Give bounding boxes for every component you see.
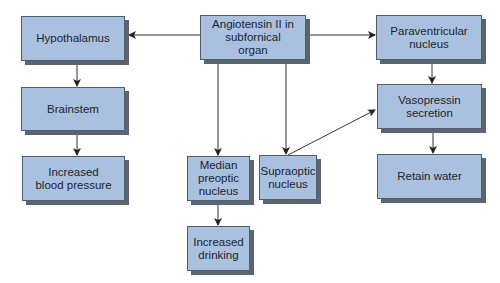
node-retain-water: Retain water — [377, 154, 482, 199]
node-label: Vasopressin secretion — [396, 94, 463, 120]
node-hypothalamus: Hypothalamus — [21, 16, 125, 61]
node-label: Brainstem — [47, 103, 99, 116]
node-median-preoptic-nucleus: Median preoptic nucleus — [187, 156, 250, 201]
node-brainstem: Brainstem — [21, 87, 125, 131]
node-label: Increased drinking — [192, 236, 245, 262]
node-paraventricular-nucleus: Paraventricular nucleus — [376, 15, 482, 60]
node-vasopressin-secretion: Vasopressin secretion — [377, 84, 482, 129]
node-label: Median preoptic nucleus — [194, 159, 243, 198]
node-label: Increased blood pressure — [33, 166, 114, 192]
node-label: Hypothalamus — [36, 32, 110, 45]
node-label: Angiotensin II in subfornical organ — [209, 18, 297, 57]
edge-supraoptic-vasopressin — [288, 110, 375, 155]
node-label: Supraoptic nucleus — [261, 165, 316, 191]
node-supraoptic-nucleus: Supraoptic nucleus — [259, 155, 317, 200]
node-increased-drinking: Increased drinking — [187, 226, 250, 271]
node-label: Retain water — [397, 170, 462, 183]
node-label: Paraventricular nucleus — [390, 25, 467, 51]
node-angiotensin-ii: Angiotensin II in subfornical organ — [200, 15, 306, 60]
node-increased-blood-pressure: Increased blood pressure — [22, 156, 125, 201]
